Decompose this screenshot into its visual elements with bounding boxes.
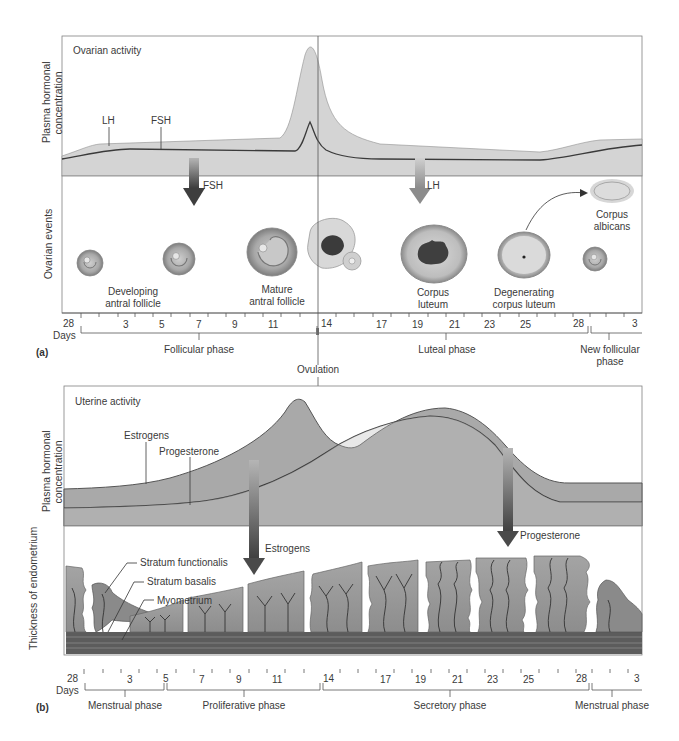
ovarian-hormone-chart [62, 36, 642, 176]
day-tick: 14 [321, 318, 332, 329]
day-tick: 3 [123, 319, 129, 330]
ovulation-label: Ovulation [288, 364, 348, 376]
corpus-albicans-icon [590, 179, 634, 203]
lh-curve-label: LH [102, 115, 115, 127]
label-line: Mature [238, 284, 316, 296]
label-line: Corpus [586, 209, 638, 221]
label-line: antral follicle [94, 298, 172, 310]
fsh-curve-label: FSH [151, 115, 171, 127]
progesterone-arrow-label: Progesterone [520, 530, 580, 542]
day-tick: 9 [232, 319, 238, 330]
day-tick: 19 [415, 674, 426, 685]
corpus-luteum-label: Corpus luteum [404, 287, 462, 311]
uterine-activity-title: Uterine activity [75, 396, 141, 407]
estrogens-curve-label: Estrogens [124, 430, 169, 442]
label-line: corpus luteum [484, 299, 564, 311]
secretory-phase-label: Secretory phase [400, 700, 500, 712]
day-tick: 28 [576, 673, 587, 684]
axis-label-line-1: Plasma hormonal [40, 432, 52, 512]
luteal-phase-label: Luteal phase [397, 344, 497, 356]
day-tick: 5 [159, 319, 165, 330]
label-line: Corpus [404, 287, 462, 299]
day-tick: 11 [272, 674, 282, 685]
ovarian-hormone-y-axis-label: Plasma hormonal concentration [40, 63, 64, 143]
day-tick: 28 [67, 673, 78, 684]
stratum-basalis-label: Stratum basalis [147, 576, 216, 588]
day-tick: 21 [449, 319, 460, 330]
day-tick: 14 [323, 673, 334, 684]
day-tick: 7 [196, 319, 202, 330]
degenerating-corpus-luteum-label: Degenerating corpus luteum [484, 287, 564, 311]
label-line: antral follicle [238, 296, 316, 308]
developing-follicle-1-icon [77, 250, 103, 276]
follicular-phase-label: Follicular phase [149, 344, 249, 356]
uterine-hormone-chart [64, 386, 642, 526]
axis-label-line-2: concentration [52, 63, 64, 143]
menstrual-phase-2-label: Menstrual phase [566, 700, 658, 712]
day-tick: 11 [268, 319, 278, 330]
day-tick: 5 [163, 673, 169, 684]
day-tick: 3 [127, 674, 133, 685]
day-tick: 17 [376, 319, 387, 330]
day-tick: 9 [236, 674, 242, 685]
uterine-hormone-y-axis-label: Plasma hormonal concentration [40, 432, 64, 512]
day-tick: 25 [523, 674, 534, 685]
day-tick: 17 [380, 674, 391, 685]
new-follicle-icon [583, 247, 607, 271]
day-tick: 21 [452, 674, 463, 685]
day-tick: 3 [632, 318, 638, 329]
day-tick: 23 [484, 319, 495, 330]
label-line: albicans [586, 221, 638, 233]
ovarian-activity-title: Ovarian activity [73, 45, 141, 56]
corpus-albicans-label: Corpus albicans [586, 209, 638, 233]
degenerating-corpus-luteum-icon [498, 232, 550, 278]
ovarian-day-axis [62, 313, 642, 340]
part-a-label: (a) [36, 347, 48, 358]
fsh-arrow-label: FSH [203, 180, 223, 192]
label-line: Developing [94, 286, 172, 298]
uterine-day-axis [66, 668, 642, 697]
days-axis-label: Days [56, 685, 79, 696]
mature-antral-follicle-label: Mature antral follicle [238, 284, 316, 308]
day-tick: 23 [487, 674, 498, 685]
part-b-label: (b) [36, 702, 49, 713]
estrogens-arrow-label: Estrogens [265, 543, 310, 555]
ovarian-events-y-axis-label: Ovarian events [42, 204, 54, 284]
label-line: phase [568, 356, 652, 368]
label-line: luteum [404, 299, 462, 311]
day-tick: 19 [412, 319, 423, 330]
developing-follicle-2-icon [163, 243, 195, 275]
progesterone-curve-label: Progesterone [159, 446, 219, 458]
day-tick: 7 [199, 674, 205, 685]
day-tick: 28 [63, 318, 74, 329]
stratum-functionalis-label: Stratum functionalis [140, 557, 228, 569]
axis-label-line-1: Plasma hormonal [40, 63, 52, 143]
day-tick: 25 [520, 319, 531, 330]
label-line: Degenerating [484, 287, 564, 299]
axis-label-line-2: concentration [52, 432, 64, 512]
mature-follicle-icon [247, 228, 297, 276]
endometrium-y-axis-label: Thickness of endometrium [27, 530, 39, 650]
label-line: New follicular [568, 344, 652, 356]
day-tick: 28 [573, 318, 584, 329]
proliferative-phase-label: Proliferative phase [194, 700, 294, 712]
developing-antral-follicle-label: Developing antral follicle [94, 286, 172, 310]
lh-arrow-label: LH [427, 180, 440, 192]
day-tick: 3 [634, 673, 640, 684]
days-axis-label: Days [53, 330, 76, 341]
myometrium-label: Myometrium [157, 595, 212, 607]
menstrual-phase-label: Menstrual phase [80, 700, 170, 712]
corpus-luteum-icon [401, 225, 467, 283]
new-follicular-phase-label: New follicular phase [568, 344, 652, 368]
